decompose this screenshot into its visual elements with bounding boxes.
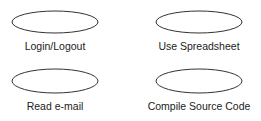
use-case-label: Read e-mail (0, 100, 115, 112)
use-case-ellipse (0, 4, 115, 38)
use-case-label: Use Spreadsheet (139, 40, 259, 52)
use-case-ellipse (0, 63, 115, 97)
use-case-ellipse (139, 4, 259, 38)
use-case-label: Compile Source Code (139, 100, 259, 112)
use-case-read-email: Read e-mail (0, 63, 115, 119)
use-case-compile-source-code: Compile Source Code (139, 63, 259, 119)
use-case-use-spreadsheet: Use Spreadsheet (139, 4, 259, 60)
use-case-ellipse (139, 63, 259, 97)
use-case-login-logout: Login/Logout (0, 4, 115, 60)
use-case-label: Login/Logout (0, 40, 115, 52)
